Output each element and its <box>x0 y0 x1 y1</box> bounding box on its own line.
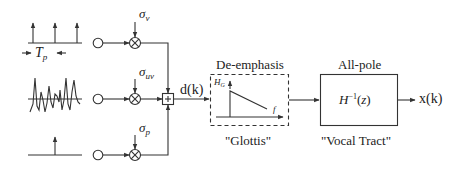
multiplier-unvoiced <box>130 94 141 105</box>
transfer-function-label: H−1(z) <box>339 93 371 106</box>
glottis-title: De-emphasis <box>216 58 284 71</box>
gain-voiced-label: σv <box>139 7 149 23</box>
gain-plosive-label: σp <box>139 121 150 137</box>
multiplier-plosive <box>130 150 141 161</box>
switch-plosive[interactable] <box>93 150 103 160</box>
gain-unvoiced-label: σuv <box>139 65 154 81</box>
single-impulse-source <box>28 137 82 155</box>
vocal-tract-caption: "Vocal Tract" <box>321 134 391 147</box>
multiplier-voiced <box>130 38 141 49</box>
glottis-y-axis-label: HG <box>214 78 225 88</box>
excitation-label: d(k) <box>180 83 203 97</box>
switch-voiced[interactable] <box>93 38 103 48</box>
adder <box>163 94 174 105</box>
switch-unvoiced[interactable] <box>93 94 103 104</box>
vocal-tract-title: All-pole <box>338 58 381 71</box>
period-label: Tp <box>35 46 47 62</box>
glottis-x-axis-label: f <box>273 105 276 114</box>
output-label: x(k) <box>419 92 442 106</box>
noise-source <box>28 78 82 112</box>
impulse-train-source <box>22 23 82 53</box>
glottis-caption: "Glottis" <box>225 134 271 147</box>
